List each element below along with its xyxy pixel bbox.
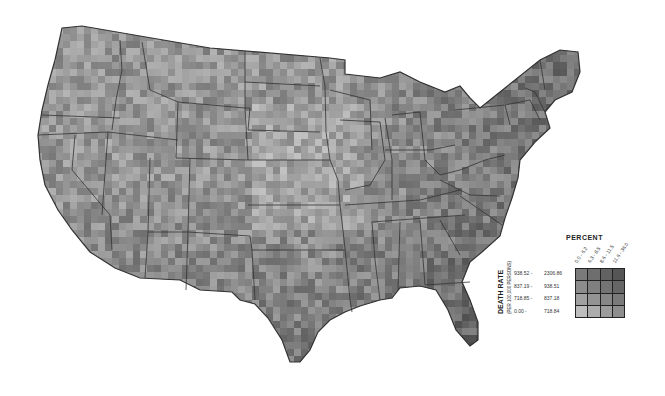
county-cell (497, 321, 505, 331)
county-cell (511, 202, 521, 210)
county-cell (497, 167, 505, 175)
county-cell (224, 363, 232, 372)
county-cell (357, 321, 366, 328)
county-cell (238, 363, 245, 372)
county-cell (161, 20, 169, 28)
county-cell (35, 76, 44, 86)
county-cell (238, 328, 247, 337)
county-cell (168, 335, 177, 343)
county-cell (518, 195, 526, 202)
county-cell (553, 335, 562, 343)
legend-rate-title: DEATH RATE (497, 270, 504, 314)
county-cell (476, 62, 485, 70)
legend-cell (601, 269, 612, 280)
county-cell (364, 307, 373, 316)
county-cell (175, 286, 185, 295)
county-cell (539, 160, 548, 168)
county-cell (539, 335, 547, 345)
county-cell (378, 314, 387, 322)
county-cell (35, 342, 45, 351)
county-cell (378, 321, 386, 329)
county-cell (511, 335, 518, 344)
county-cell (581, 34, 589, 42)
county-cell (385, 48, 395, 58)
legend-rate-class: 938.52 -2306.86 (514, 270, 572, 276)
county-cell (532, 237, 541, 244)
county-cell (560, 146, 570, 156)
county-cell (532, 328, 541, 338)
county-cell (546, 167, 556, 177)
county-cell (294, 34, 303, 43)
county-cell (70, 321, 80, 331)
county-cell (357, 314, 366, 322)
county-cell (560, 342, 570, 350)
county-cell (196, 363, 206, 371)
county-cell (406, 34, 416, 44)
county-cell (518, 321, 527, 331)
county-cell (420, 349, 428, 357)
county-cell (483, 328, 492, 337)
county-cell (511, 251, 519, 259)
county-cell (406, 328, 415, 338)
county-cell (133, 125, 141, 133)
county-cell (546, 349, 555, 359)
county-cell (448, 34, 456, 42)
county-cell (497, 62, 507, 72)
county-cell (42, 279, 49, 287)
county-cell (511, 27, 520, 36)
county-cell (126, 342, 134, 350)
county-cell (140, 286, 148, 295)
county-cell (98, 286, 106, 294)
county-cell (196, 321, 203, 329)
county-cell (518, 27, 528, 37)
county-cell (217, 321, 225, 329)
county-cell (98, 356, 106, 365)
county-cell (245, 342, 254, 350)
county-cell (553, 328, 561, 338)
county-cell (63, 265, 73, 274)
county-cell (336, 27, 346, 36)
county-cell (91, 314, 99, 323)
county-cell (441, 41, 451, 51)
county-cell (182, 27, 190, 36)
county-cell (413, 335, 422, 344)
county-cell (70, 342, 79, 351)
county-cell (35, 321, 44, 331)
county-cell (147, 104, 155, 111)
county-cell (553, 153, 562, 163)
county-cell (168, 20, 176, 28)
county-cell (56, 307, 64, 317)
county-cell (336, 251, 344, 259)
county-cell (525, 328, 533, 336)
county-cell (434, 342, 442, 351)
county-cell (448, 20, 457, 28)
county-cell (35, 258, 43, 268)
county-cell (427, 349, 435, 358)
county-cell (91, 342, 99, 350)
county-cell (525, 314, 535, 323)
county-cell (441, 356, 451, 366)
county-cell (133, 314, 140, 324)
county-cell (154, 27, 162, 37)
county-cell (343, 335, 352, 344)
county-cell (560, 251, 569, 260)
county-cell (497, 356, 506, 366)
county-cell (581, 20, 591, 29)
county-cell (56, 314, 65, 321)
county-cell (119, 300, 126, 309)
county-cell (497, 363, 507, 371)
county-cell (175, 335, 184, 344)
county-cell (448, 62, 456, 70)
county-cell (161, 300, 168, 308)
county-cell (126, 293, 134, 302)
county-cell (357, 209, 365, 217)
county-cell (497, 55, 507, 65)
county-cell (70, 335, 79, 344)
county-cell (196, 300, 203, 308)
county-cell (203, 293, 213, 302)
county-cell (385, 300, 394, 308)
county-cell (126, 83, 134, 91)
county-cell (532, 146, 539, 155)
county-cell (490, 356, 498, 364)
county-cell (455, 55, 465, 65)
